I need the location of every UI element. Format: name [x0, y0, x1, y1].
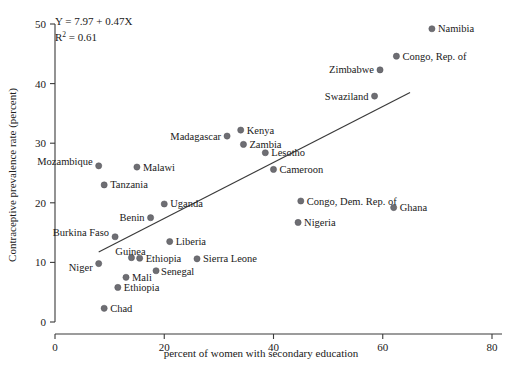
data-point: Madagascar — [170, 131, 230, 142]
data-point-label: Lesotho — [271, 147, 305, 158]
scatter-plot-figure: 01020304050020406080 NamibiaCongo, Rep. … — [0, 0, 507, 374]
data-point-marker — [147, 215, 153, 221]
y-axis-tick-label: 30 — [35, 137, 47, 149]
data-point-marker — [393, 53, 399, 59]
data-point-marker — [96, 163, 102, 169]
plot-canvas: 01020304050020406080 NamibiaCongo, Rep. … — [0, 0, 507, 374]
data-point-marker — [224, 133, 230, 139]
data-point: Zimbabwe — [329, 64, 383, 75]
x-axis-tick-label: 80 — [487, 341, 499, 353]
data-point-label: Ethiopia — [124, 282, 160, 293]
data-point-marker — [262, 150, 268, 156]
data-point: Ethiopia — [115, 282, 160, 293]
data-point: Malawi — [134, 162, 175, 173]
y-axis-tick-label: 50 — [35, 18, 47, 30]
data-point-marker — [298, 198, 304, 204]
data-point-label: Congo, Rep. of — [402, 51, 467, 62]
data-point-marker — [429, 26, 435, 32]
data-point-marker — [115, 284, 121, 290]
data-point-label: Uganda — [170, 198, 203, 209]
data-point-label: Zimbabwe — [329, 64, 374, 75]
data-point: Burkina Faso — [53, 227, 118, 240]
x-axis-title: percent of women with secondary educatio… — [164, 347, 359, 359]
data-point-marker — [295, 219, 301, 225]
data-point: Mozambique — [37, 156, 102, 169]
data-point: Senegal — [153, 266, 194, 277]
data-point-label: Tanzania — [110, 179, 148, 190]
data-point-label: Nigeria — [304, 217, 336, 228]
data-point-marker — [391, 204, 397, 210]
data-point-marker — [238, 127, 244, 133]
data-point-label: Chad — [110, 303, 133, 314]
data-point-label: Senegal — [161, 266, 194, 277]
data-point-label: Liberia — [176, 236, 207, 247]
y-axis-tick-label: 40 — [35, 78, 47, 90]
data-point-label: Namibia — [438, 23, 474, 34]
data-point-label: Mozambique — [37, 156, 93, 167]
y-axis-tick-label: 0 — [41, 316, 47, 328]
y-axis-tick-label: 10 — [35, 256, 47, 268]
data-point-marker — [161, 201, 167, 207]
data-point: Nigeria — [295, 217, 336, 228]
data-point: Congo, Dem. Rep. of — [298, 196, 397, 207]
y-axis-title: Contraceptive prevalence rate (percent) — [6, 88, 19, 262]
data-point: Sierra Leone — [194, 253, 257, 264]
regression-equation-annotation: Y = 7.97 + 0.47X — [55, 15, 132, 27]
data-point-label: Benin — [120, 212, 146, 223]
data-point: Niger — [69, 260, 102, 272]
data-point-label: Cameroon — [280, 164, 324, 175]
data-point: Benin — [120, 212, 154, 223]
data-point-marker — [112, 234, 118, 240]
r-squared-annotation: R2 = 0.61 — [55, 30, 97, 43]
data-point: Congo, Rep. of — [393, 51, 467, 62]
data-point: Kenya — [238, 125, 275, 136]
data-point: Uganda — [161, 198, 203, 209]
data-point-marker — [377, 67, 383, 73]
data-point-marker — [101, 305, 107, 311]
data-point-marker — [134, 164, 140, 170]
data-point: Swaziland — [325, 91, 378, 102]
data-point-label: Kenya — [247, 125, 275, 136]
data-point-marker — [123, 274, 129, 280]
data-point-label: Swaziland — [325, 91, 369, 102]
data-points: NamibiaCongo, Rep. ofZimbabweSwazilandKe… — [37, 23, 474, 314]
data-point: Namibia — [429, 23, 475, 34]
y-axis-tick-label: 20 — [35, 197, 47, 209]
data-point: Cameroon — [270, 164, 324, 175]
data-point-label: Congo, Dem. Rep. of — [307, 196, 397, 207]
data-point-marker — [137, 255, 143, 261]
data-point-label: Ghana — [400, 202, 428, 213]
data-point-marker — [167, 238, 173, 244]
data-point-marker — [194, 256, 200, 262]
r-squared-value: = 0.61 — [66, 31, 97, 43]
data-point-marker — [101, 182, 107, 188]
data-point-label: Burkina Faso — [53, 227, 109, 238]
data-point-label: Ethiopia — [146, 253, 182, 264]
data-point: Tanzania — [101, 179, 148, 190]
data-point-label: Niger — [69, 262, 93, 273]
data-point-label: Sierra Leone — [203, 253, 257, 264]
data-point-marker — [96, 260, 102, 266]
data-point-marker — [240, 141, 246, 147]
data-point-marker — [371, 93, 377, 99]
x-axis-tick-label: 60 — [377, 341, 389, 353]
data-point: Chad — [101, 303, 133, 314]
data-point-label: Madagascar — [170, 131, 221, 142]
data-point-marker — [153, 268, 159, 274]
x-axis-tick-label: 0 — [52, 341, 58, 353]
data-point: Liberia — [167, 236, 207, 247]
data-point-marker — [270, 166, 276, 172]
data-point-label: Malawi — [143, 162, 175, 173]
